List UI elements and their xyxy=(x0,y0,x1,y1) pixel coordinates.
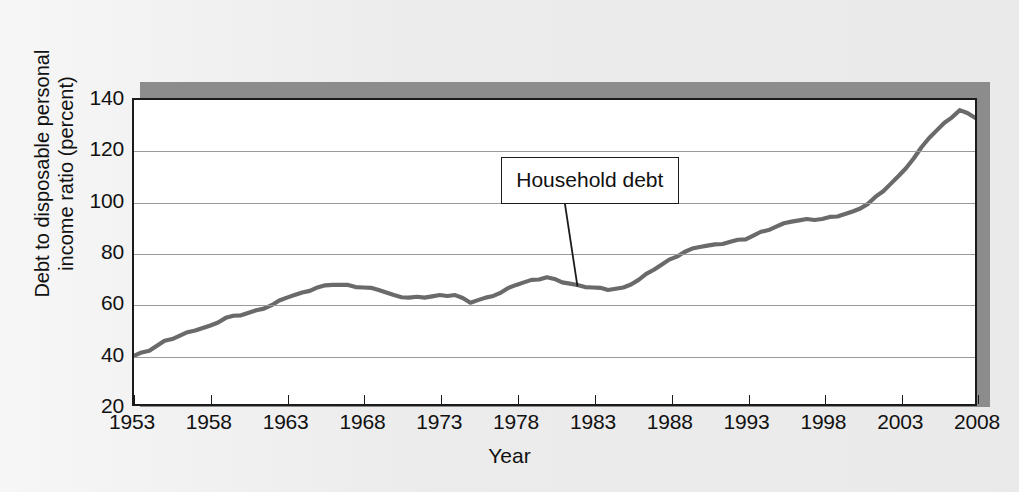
y-axis-tick-labels: 20406080100120140 xyxy=(50,98,124,406)
x-tick-label-1983: 1983 xyxy=(570,410,616,434)
y-tick-label-100: 100 xyxy=(90,190,124,211)
chart-figure: Debt to disposable personal income ratio… xyxy=(0,0,1019,492)
y-tick-label-120: 120 xyxy=(90,138,124,159)
household-debt-line xyxy=(134,100,975,404)
x-tick-label-1963: 1963 xyxy=(263,410,309,434)
y-tick-label-140: 140 xyxy=(90,87,124,108)
x-tick-label-2008: 2008 xyxy=(954,410,1000,434)
x-tick-1973 xyxy=(441,395,442,404)
gridline-y-120 xyxy=(134,151,975,152)
x-tick-1983 xyxy=(595,395,596,404)
x-tick-label-1988: 1988 xyxy=(647,410,693,434)
x-tick-label-1968: 1968 xyxy=(339,410,385,434)
x-tick-1988 xyxy=(672,395,673,404)
x-tick-label-2003: 2003 xyxy=(877,410,923,434)
x-tick-label-1978: 1978 xyxy=(493,410,539,434)
y-tick-label-60: 60 xyxy=(101,292,124,313)
gridline-y-40 xyxy=(134,357,975,358)
gridline-y-60 xyxy=(134,305,975,306)
annotation-callout-box: Household debt xyxy=(501,157,679,204)
y-tick-label-80: 80 xyxy=(101,241,124,262)
x-tick-1968 xyxy=(364,395,365,404)
x-tick-label-1973: 1973 xyxy=(416,410,462,434)
plot-area xyxy=(132,98,977,406)
annotation-callout-label: Household debt xyxy=(516,168,663,192)
x-axis-title: Year xyxy=(0,444,1019,468)
x-tick-1998 xyxy=(825,395,826,404)
x-tick-label-1998: 1998 xyxy=(800,410,846,434)
y-tick-label-40: 40 xyxy=(101,344,124,365)
gridline-y-80 xyxy=(134,254,975,255)
x-axis-tick-labels: 1953195819631968197319781983198819931998… xyxy=(132,410,977,440)
x-tick-2008 xyxy=(978,395,979,404)
x-tick-1993 xyxy=(749,395,750,404)
x-tick-label-1958: 1958 xyxy=(186,410,232,434)
x-tick-label-1993: 1993 xyxy=(724,410,770,434)
x-tick-1958 xyxy=(211,395,212,404)
x-tick-label-1953: 1953 xyxy=(109,410,155,434)
x-tick-2003 xyxy=(902,395,903,404)
x-tick-1963 xyxy=(288,395,289,404)
x-tick-1953 xyxy=(134,395,135,404)
x-tick-1978 xyxy=(518,395,519,404)
